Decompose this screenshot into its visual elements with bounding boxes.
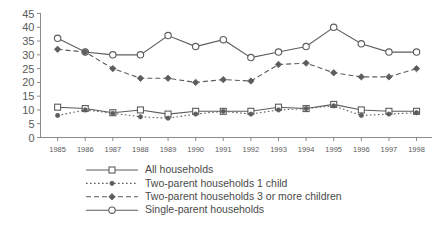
legend-two-parent-households-3-or-more-children-marker xyxy=(109,194,115,200)
legend-label: All households xyxy=(145,163,213,175)
legend-label: Two-parent households 1 child xyxy=(145,177,288,189)
legend-label: Single-parent households xyxy=(145,203,264,215)
line-chart: 051015202530354045 198519861987198819891… xyxy=(0,0,446,230)
legend-all-households-marker xyxy=(109,167,115,173)
legend-entries: All householdsTwo-parent households 1 ch… xyxy=(86,163,342,215)
legend-item-single-parent-households[interactable]: Single-parent households xyxy=(86,203,264,215)
legend-item-two-parent-households-1-child[interactable]: Two-parent households 1 child xyxy=(86,177,288,189)
legend-single-parent-households-marker xyxy=(109,207,115,213)
legend-label: Two-parent households 3 or more children xyxy=(145,190,342,202)
legend-item-all-households[interactable]: All households xyxy=(86,163,213,175)
legend-two-parent-households-1-child-marker xyxy=(110,181,114,185)
legend-item-two-parent-households-3-or-more-children[interactable]: Two-parent households 3 or more children xyxy=(86,190,342,202)
chart-legend: All householdsTwo-parent households 1 ch… xyxy=(0,0,446,230)
